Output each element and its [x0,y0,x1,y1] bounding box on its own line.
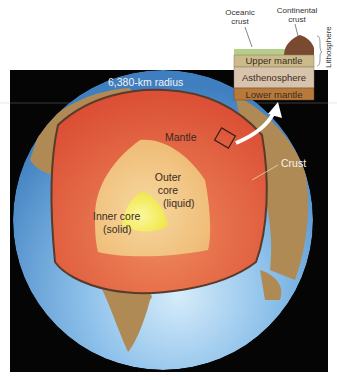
asthenosphere-label: Asthenosphere [234,72,314,83]
continental-crust-label-line1: Continental [272,6,322,15]
oceanic-crust-label-line1: Oceanic [220,8,260,17]
outer-core-label-line2: core [150,184,186,196]
outer-core-label-line3: (liquid) [163,197,195,209]
outer-core-label-line1: Outer [150,171,186,183]
radius-label: 6,380-km radius [108,76,183,88]
inner-core-label-line2: (solid) [103,223,132,235]
inner-core-label-line1: Inner core [93,210,140,222]
continental-crust-label-line2: crust [272,15,322,24]
oceanic-crust-label-line2: crust [220,17,260,26]
upper-mantle-label: Upper mantle [234,55,314,66]
crust-label: Crust [281,157,306,169]
lower-mantle-label: Lower mantle [234,89,314,100]
earth-structure-diagram: 6,380-km radius Mantle Crust Outer core … [0,0,337,380]
lithosphere-label: Lithosphere [324,26,333,68]
mantle-label: Mantle [165,131,197,143]
